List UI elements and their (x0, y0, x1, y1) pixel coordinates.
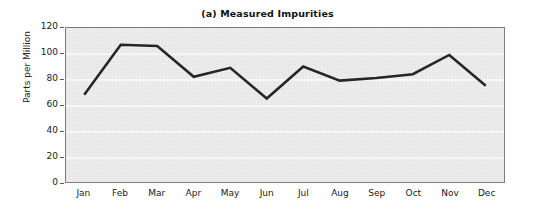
y-tick-mark (60, 79, 64, 80)
y-tick-mark (60, 131, 64, 132)
plot-area (65, 27, 505, 183)
y-tick-label: 20 (12, 152, 58, 161)
y-tick-mark (60, 53, 64, 54)
y-tick-mark (60, 27, 64, 28)
y-tick-label: 60 (12, 100, 58, 109)
y-tick-mark (60, 157, 64, 158)
y-tick-label: 0 (12, 178, 58, 187)
y-tick-label: 120 (12, 22, 58, 31)
y-tick-label: 40 (12, 126, 58, 135)
y-tick-mark (60, 183, 64, 184)
y-tick-label: 80 (12, 74, 58, 83)
chart-figure: (a) Measured Impurities Parts per Millio… (0, 0, 535, 217)
series-line-measured-impurities (84, 45, 486, 99)
y-tick-label: 100 (12, 48, 58, 57)
y-tick-mark (60, 105, 64, 106)
y-axis-tick-labels: 020406080100120 (8, 0, 58, 217)
chart-title: (a) Measured Impurities (0, 8, 535, 19)
data-line-series (66, 28, 504, 182)
x-tick-label: Dec (465, 189, 509, 198)
